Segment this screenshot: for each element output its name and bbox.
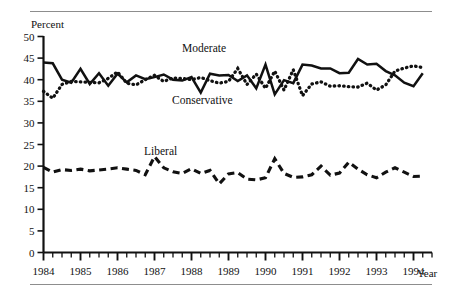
y-tick-label: 20 xyxy=(24,160,36,172)
figure: Percent Year Moderate Conservative Liber… xyxy=(0,0,462,295)
x-tick-label: 1986 xyxy=(107,265,130,277)
y-tick-label: 35 xyxy=(24,95,36,107)
x-tick-label: 1988 xyxy=(181,265,204,277)
y-tick-label: 45 xyxy=(24,52,36,64)
x-tick-label: 1987 xyxy=(144,265,167,277)
y-tick-label: 5 xyxy=(29,225,35,237)
plot-area: 05101520253035404550 1984198519861987198… xyxy=(0,0,462,295)
y-tick-label: 25 xyxy=(24,139,36,151)
x-tick-label: 1985 xyxy=(70,265,93,277)
y-tick-label: 10 xyxy=(24,203,36,215)
x-tick-label: 1992 xyxy=(329,265,351,277)
x-tick-label: 1989 xyxy=(218,265,241,277)
series-line-liberal xyxy=(44,157,423,184)
x-axis: 1984198519861987198819891990199119921993… xyxy=(33,253,433,277)
y-axis: 05101520253035404550 xyxy=(24,31,44,259)
y-tick-label: 30 xyxy=(24,117,36,129)
line-chart: 05101520253035404550 1984198519861987198… xyxy=(0,0,462,295)
x-tick-label: 1991 xyxy=(292,265,314,277)
x-tick-label: 1984 xyxy=(33,265,56,277)
series-group xyxy=(44,59,423,184)
y-tick-label: 15 xyxy=(24,182,36,194)
x-tick-label: 1994 xyxy=(403,265,426,277)
y-tick-label: 0 xyxy=(29,247,35,259)
y-tick-label: 40 xyxy=(24,74,36,86)
y-tick-label: 50 xyxy=(24,31,36,43)
series-line-conservative xyxy=(44,66,423,98)
x-tick-label: 1993 xyxy=(366,265,389,277)
x-tick-label: 1990 xyxy=(255,265,278,277)
